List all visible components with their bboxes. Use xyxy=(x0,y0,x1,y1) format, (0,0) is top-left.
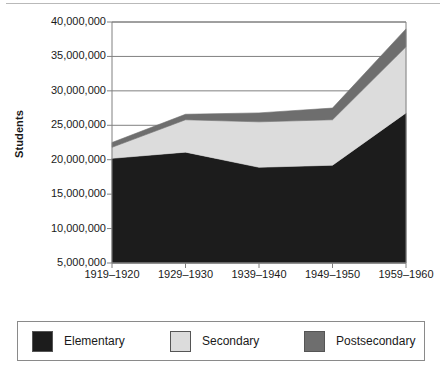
y-axis-tick-label: 10,000,000 xyxy=(51,223,106,234)
legend-item: Secondary xyxy=(170,331,259,352)
chart-legend: ElementarySecondaryPostsecondary xyxy=(17,321,425,361)
legend-swatch-icon xyxy=(170,331,191,352)
legend-swatch-icon xyxy=(32,331,53,352)
y-axis-tick-label: 15,000,000 xyxy=(51,188,106,199)
y-axis-tick-labels: 5,000,00010,000,00015,000,00020,000,0002… xyxy=(26,0,106,300)
x-axis-tick-label: 1949–1950 xyxy=(297,268,369,280)
y-axis-tick-label: 5,000,000 xyxy=(57,257,106,268)
y-axis-tick-label: 20,000,000 xyxy=(51,154,106,165)
x-axis-tick-label: 1929–1930 xyxy=(150,268,222,280)
legend-item: Postsecondary xyxy=(304,331,415,352)
x-axis-tick-labels: 1919–19201929–19301939–19401949–19501959… xyxy=(0,268,446,288)
x-axis-tick-label: 1959–1960 xyxy=(370,268,442,280)
legend-label: Postsecondary xyxy=(336,334,415,348)
legend-item: Elementary xyxy=(32,331,125,352)
plot-area: Students 5,000,00010,000,00015,000,00020… xyxy=(0,0,446,300)
y-axis-tick-label: 30,000,000 xyxy=(51,85,106,96)
y-axis-tick-label: 40,000,000 xyxy=(51,16,106,27)
y-axis-tick-label: 25,000,000 xyxy=(51,119,106,130)
legend-label: Secondary xyxy=(202,334,259,348)
chart-figure: Students 5,000,00010,000,00015,000,00020… xyxy=(0,0,446,374)
y-axis-tick-label: 35,000,000 xyxy=(51,50,106,61)
legend-swatch-icon xyxy=(304,331,325,352)
legend-label: Elementary xyxy=(64,334,125,348)
x-axis-tick-label: 1939–1940 xyxy=(223,268,295,280)
x-axis-tick-label: 1919–1920 xyxy=(76,268,148,280)
